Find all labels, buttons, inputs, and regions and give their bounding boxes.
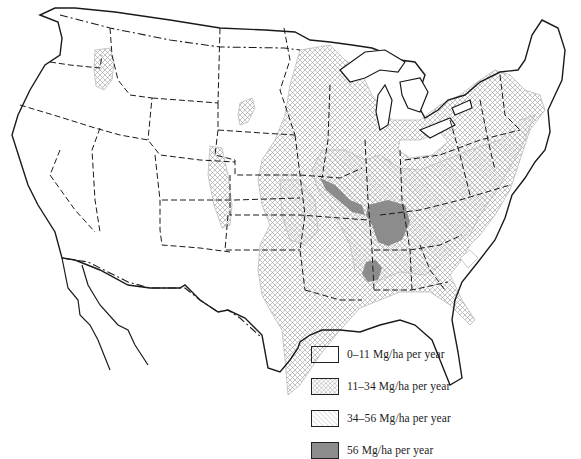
swatch-empty-icon	[311, 346, 339, 363]
legend-label: 0–11 Mg/ha per year	[347, 348, 445, 360]
legend-item-0-11: 0–11 Mg/ha per year	[311, 339, 571, 369]
swatch-crosshatch-icon	[311, 378, 339, 395]
map-legend: 0–11 Mg/ha per year 11–34 Mg/ha per year…	[311, 339, 571, 459]
canada-border	[60, 15, 300, 50]
swatch-solid-gray-icon	[311, 442, 339, 459]
legend-item-56: 56 Mg/ha per year	[311, 435, 571, 459]
mexico-border	[62, 258, 262, 338]
legend-item-34-56: 34–56 Mg/ha per year	[311, 403, 571, 433]
swatch-diagonal-icon	[311, 410, 339, 427]
baja-outline	[62, 258, 148, 370]
legend-label: 11–34 Mg/ha per year	[347, 380, 450, 392]
legend-label: 34–56 Mg/ha per year	[347, 412, 451, 424]
legend-item-11-34: 11–34 Mg/ha per year	[311, 371, 571, 401]
legend-label: 56 Mg/ha per year	[347, 444, 433, 456]
